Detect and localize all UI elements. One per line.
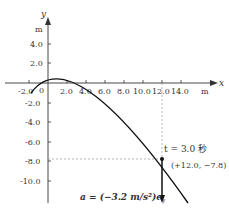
trajectory-diagram: -2.0 0 2.0 4.0 6.0 8.0 10.0 12.0 14.0 m …	[0, 0, 229, 214]
x-axis-arrow-icon	[210, 80, 218, 86]
y-axis-label: y	[40, 9, 47, 19]
x-tick-label: 8.0	[117, 87, 130, 96]
y-unit-label: m	[35, 25, 43, 34]
point-coordinate-label: (+12.0, −7.8)	[171, 161, 226, 170]
x-tick-label: 12.0	[152, 87, 170, 96]
x-axis-label: x	[219, 78, 224, 88]
x-unit-label: m	[201, 87, 209, 96]
x-tick-label: 10.0	[133, 87, 151, 96]
time-label: t = 3.0 秒	[164, 143, 207, 154]
x-tick-label: 2.0	[60, 87, 73, 96]
x-tick-label: -2.0	[18, 87, 33, 96]
y-tick-label: 4.0	[30, 40, 43, 49]
y-tick-label: 2.0	[30, 59, 43, 68]
origin-label: 0	[39, 86, 44, 95]
acceleration-label: a = (−3.2 m/s²)ey	[80, 192, 166, 204]
y-tick-label: -4.0	[25, 118, 40, 127]
y-tick-label: -8.0	[25, 157, 40, 166]
y-tick-label: -6.0	[25, 138, 40, 147]
x-tick-label: 14.0	[171, 87, 189, 96]
x-tick-label: 6.0	[98, 87, 111, 96]
y-tick-label: -2.0	[25, 99, 40, 108]
y-tick-label: -10.0	[20, 177, 41, 186]
trajectory-curve	[31, 79, 188, 203]
